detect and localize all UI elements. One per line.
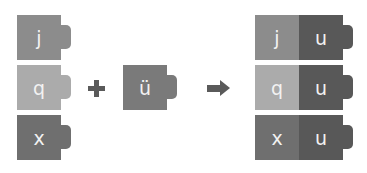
- connector-tab: [61, 75, 71, 99]
- block-label: j: [36, 27, 41, 49]
- result-right-cell: u: [299, 15, 343, 60]
- block-u-umlaut: ü: [123, 65, 167, 110]
- block-q-cell: q: [17, 65, 61, 110]
- plus-icon: [88, 80, 105, 97]
- connector-tab: [167, 75, 177, 99]
- result-left-cell: q: [255, 65, 299, 110]
- block-u-umlaut-cell: ü: [123, 65, 167, 110]
- block-label: ü: [139, 77, 151, 99]
- result-left-cell: j: [255, 15, 299, 60]
- connector-tab: [61, 25, 71, 49]
- block-label: x: [271, 127, 282, 149]
- connector-tab: [343, 125, 353, 149]
- block-x-cell: x: [17, 115, 61, 160]
- result-right-cell: u: [299, 65, 343, 110]
- connector-tab: [343, 25, 353, 49]
- block-label: q: [33, 77, 45, 99]
- block-j-cell: j: [17, 15, 61, 60]
- block-x: x: [17, 115, 61, 160]
- arrow-right-icon: [207, 80, 230, 97]
- block-q: q: [17, 65, 61, 110]
- result-right-cell: u: [299, 115, 343, 160]
- result-block-qu: q u: [255, 65, 343, 110]
- result-left-cell: x: [255, 115, 299, 160]
- block-label: j: [274, 27, 279, 49]
- block-label: u: [315, 27, 327, 49]
- result-block-ju: j u: [255, 15, 343, 60]
- connector-tab: [343, 75, 353, 99]
- block-label: x: [33, 127, 44, 149]
- block-label: u: [315, 77, 327, 99]
- block-label: q: [271, 77, 283, 99]
- block-j: j: [17, 15, 61, 60]
- connector-tab: [61, 125, 71, 149]
- block-label: u: [315, 127, 327, 149]
- result-block-xu: x u: [255, 115, 343, 160]
